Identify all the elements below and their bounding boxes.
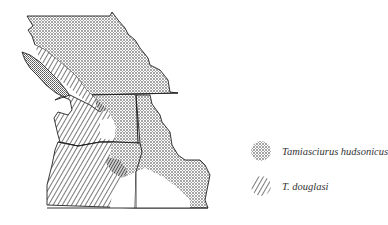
legend-label: Tamiasciurus hudsonicus xyxy=(282,146,388,157)
legend-item-douglasi: T. douglasi xyxy=(250,175,328,197)
legend-item-hudsonicus: Tamiasciurus hudsonicus xyxy=(250,140,388,162)
stipple-swatch-icon xyxy=(250,140,272,162)
washington-region xyxy=(54,95,138,146)
hatch-swatch-icon xyxy=(250,175,272,197)
legend-label: T. douglasi xyxy=(282,181,328,192)
oregon-region xyxy=(47,142,142,208)
idaho-region xyxy=(135,95,210,208)
